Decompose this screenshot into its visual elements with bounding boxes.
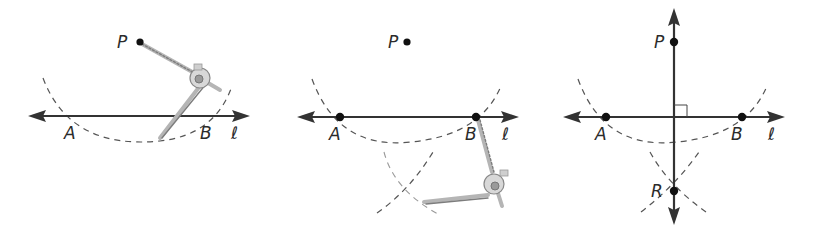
label-line-l: ℓ xyxy=(501,124,509,144)
label-line-l: ℓ xyxy=(230,123,238,143)
label-line-l: ℓ xyxy=(767,124,775,144)
label-r: R xyxy=(651,181,663,201)
label-a: A xyxy=(63,123,76,143)
point-b xyxy=(472,113,480,121)
figure-canvas: P A B ℓ P A B ℓ xyxy=(0,0,816,231)
point-a xyxy=(336,113,344,121)
label-p: P xyxy=(654,32,665,52)
panel-step-1: P A B ℓ xyxy=(28,32,250,143)
label-a: A xyxy=(328,124,341,144)
panel-step-3: P A B R ℓ xyxy=(563,8,785,225)
label-b: B xyxy=(731,124,743,144)
right-angle-mark xyxy=(674,105,687,117)
point-r xyxy=(670,187,678,195)
panel-step-2: P A B ℓ xyxy=(297,32,519,214)
label-b: B xyxy=(200,123,212,143)
construction-figure: P A B ℓ P A B ℓ xyxy=(0,0,816,231)
label-b: B xyxy=(465,124,477,144)
label-p: P xyxy=(117,32,128,52)
label-a: A xyxy=(594,124,607,144)
label-p: P xyxy=(388,32,399,52)
point-p xyxy=(670,38,678,46)
point-p xyxy=(136,38,143,45)
point-b xyxy=(738,113,746,121)
arc-from-b xyxy=(641,152,699,212)
point-p xyxy=(403,38,410,45)
point-a xyxy=(602,113,610,121)
